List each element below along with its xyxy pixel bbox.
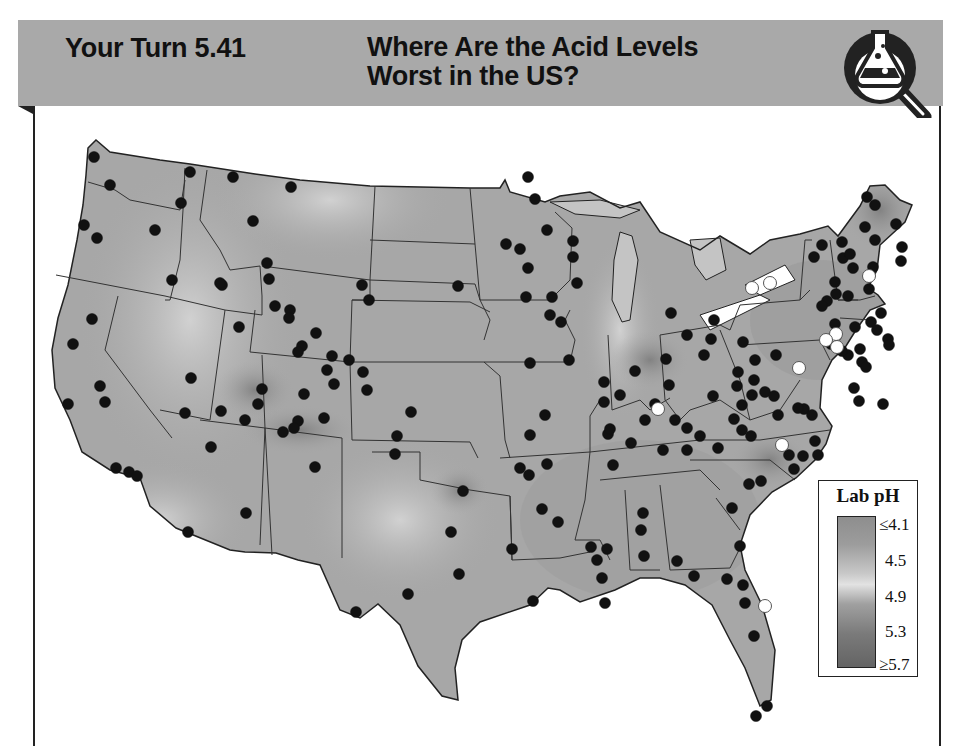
site-marker <box>241 508 252 519</box>
site-marker <box>293 347 304 358</box>
site-marker <box>762 701 773 712</box>
site-marker <box>670 415 681 426</box>
highlighted-site-marker <box>793 362 806 375</box>
site-marker <box>87 314 98 325</box>
site-marker <box>299 389 310 400</box>
site-marker <box>729 414 740 425</box>
site-marker <box>817 240 828 251</box>
site-marker <box>68 339 79 350</box>
site-marker <box>732 381 743 392</box>
site-marker <box>699 350 710 361</box>
site-marker <box>132 471 143 482</box>
highlighted-site-marker <box>746 282 759 295</box>
site-marker <box>257 384 268 395</box>
site-marker <box>572 278 583 289</box>
site-marker <box>747 390 758 401</box>
site-marker <box>111 463 122 474</box>
site-marker <box>615 390 626 401</box>
site-marker <box>756 476 767 487</box>
site-marker <box>896 256 907 267</box>
site-marker <box>586 542 597 553</box>
site-marker <box>605 424 616 435</box>
site-marker <box>793 403 804 414</box>
site-marker <box>849 383 860 394</box>
site-marker <box>695 431 706 442</box>
site-marker <box>453 281 464 292</box>
highlighted-site-marker <box>863 270 876 283</box>
site-marker <box>860 222 871 233</box>
site-marker <box>682 330 693 341</box>
site-marker <box>740 598 751 609</box>
site-marker <box>713 443 724 454</box>
site-marker <box>672 556 683 567</box>
site-marker <box>547 292 558 303</box>
site-marker <box>771 350 782 361</box>
site-marker <box>891 219 902 230</box>
site-marker <box>215 278 226 289</box>
legend: Lab pH ≤4.1 4.5 4.9 5.3 ≥5.7 <box>818 480 918 677</box>
site-marker <box>749 631 760 642</box>
site-marker <box>870 200 881 211</box>
site-marker <box>658 445 669 456</box>
site-marker <box>843 291 854 302</box>
site-marker <box>854 396 865 407</box>
site-marker <box>351 607 362 618</box>
site-marker <box>216 406 227 417</box>
site-marker <box>876 308 887 319</box>
site-marker <box>515 463 526 474</box>
site-marker <box>831 289 842 300</box>
highlighted-site-marker <box>652 403 665 416</box>
site-marker <box>454 569 465 580</box>
site-marker <box>262 258 273 269</box>
site-marker <box>864 284 875 295</box>
site-marker <box>722 574 733 585</box>
site-marker <box>528 596 539 607</box>
site-marker <box>706 334 717 345</box>
site-marker <box>501 239 512 250</box>
site-marker <box>206 442 217 453</box>
site-marker <box>329 379 340 390</box>
site-marker <box>542 459 553 470</box>
site-marker <box>362 385 373 396</box>
site-marker <box>855 344 866 355</box>
site-marker <box>392 431 403 442</box>
site-marker <box>813 450 824 461</box>
site-marker <box>150 225 161 236</box>
site-marker <box>523 263 534 274</box>
site-marker <box>682 445 693 456</box>
site-marker <box>79 220 90 231</box>
site-marker <box>798 451 809 462</box>
site-marker <box>638 508 649 519</box>
site-marker <box>830 277 841 288</box>
site-marker <box>773 410 784 421</box>
site-marker <box>515 244 526 255</box>
highlighted-site-marker <box>764 277 777 290</box>
site-marker <box>390 449 401 460</box>
site-marker <box>523 172 534 183</box>
legend-tick-3: 5.3 <box>885 622 906 642</box>
site-marker <box>564 355 575 366</box>
site-marker <box>664 380 675 391</box>
site-marker <box>284 313 295 324</box>
site-marker <box>264 274 275 285</box>
site-marker <box>809 252 820 263</box>
site-marker <box>750 355 761 366</box>
site-marker <box>751 711 762 722</box>
site-marker <box>737 400 748 411</box>
legend-color-bar <box>837 516 876 668</box>
site-marker <box>327 351 338 362</box>
site-marker <box>240 415 251 426</box>
site-marker <box>861 362 872 373</box>
site-marker <box>358 367 369 378</box>
site-marker <box>640 415 651 426</box>
site-marker <box>727 503 738 514</box>
site-marker <box>253 399 264 410</box>
site-marker <box>524 470 535 481</box>
site-marker <box>95 381 106 392</box>
site-marker <box>600 598 611 609</box>
site-marker <box>689 571 700 582</box>
site-marker <box>878 399 889 410</box>
site-marker <box>608 460 619 471</box>
site-marker <box>248 216 259 227</box>
legend-tick-0: ≤4.1 <box>879 515 910 535</box>
